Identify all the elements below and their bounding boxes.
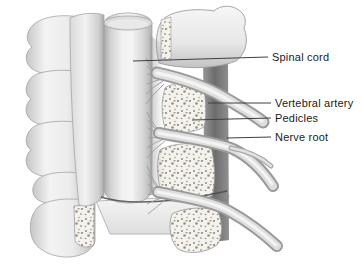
label-vertebral-artery: Vertebral artery (275, 96, 353, 110)
pedicle-cross-section (170, 208, 222, 252)
leader-line-nerve-root (227, 137, 271, 138)
cancellous-bone-strip (74, 204, 94, 247)
cord-right-shadow (150, 35, 163, 195)
anatomy-figure: Spinal cord Vertebral artery Pedicles Ne… (0, 0, 363, 268)
cord-top-face (108, 19, 148, 29)
label-nerve-root: Nerve root (275, 130, 328, 144)
label-spinal-cord: Spinal cord (272, 50, 329, 64)
spinal-cord-cylinder (104, 13, 163, 203)
cord-body (104, 13, 152, 203)
label-pedicles: Pedicles (275, 111, 318, 125)
